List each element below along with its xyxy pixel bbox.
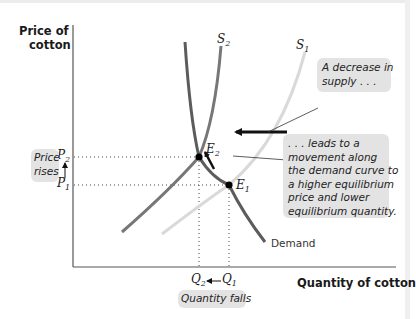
tick-q2: Q2 [191,272,206,288]
x-axis-title: Quantity of cotton [297,276,416,290]
tick-q1: Q1 [222,272,237,288]
note-leads-line6: equilibrium quantity. [288,205,389,219]
y-axis-title-line1: Price of [19,24,65,38]
note-leads-line4: a higher equilibrium [288,178,389,192]
leader-line-leads [233,156,287,160]
note-price-rises: Price rises [31,149,59,182]
label-e1: E1 [236,178,250,194]
equilibrium-point-e1 [225,181,232,188]
equilibrium-point-e2 [195,153,202,160]
note-price-line2: rises [34,165,59,179]
tick-p1: P1 [57,176,70,192]
label-demand: Demand [271,237,316,249]
label-s1: S1 [296,38,309,54]
leader-line-decrease [268,108,318,132]
demand-curve [185,42,265,242]
note-decrease-line2: supply . . . [322,75,391,89]
note-quantity-falls: Quantity falls [178,290,246,308]
note-decrease-in-supply: A decrease in supply . . . [317,58,391,92]
supply-curve-s2 [122,46,221,232]
note-leads-line3: the demand curve to [288,164,389,178]
label-e2: E2 [206,142,220,158]
note-leads-line2: movement along [288,151,389,165]
y-axis-title-line2: cotton [29,38,65,52]
note-leads-to-movement: . . . leads to a movement along the dema… [283,134,389,218]
note-price-line1: Price [34,151,59,165]
note-leads-line5: price and lower [288,191,389,205]
note-leads-line1: . . . leads to a [288,137,389,151]
label-s2: S2 [217,32,230,48]
note-decrease-line1: A decrease in [322,61,391,75]
y-axis-title: Price of cotton [29,24,65,52]
